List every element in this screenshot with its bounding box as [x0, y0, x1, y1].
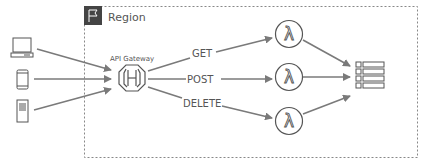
- region-boundary: [85, 7, 418, 158]
- region-label: Region: [108, 11, 146, 24]
- api-gateway-icon: [119, 65, 145, 91]
- client-arrows: [34, 49, 111, 110]
- flag-icon: [84, 6, 102, 25]
- lambda-icon: λ: [276, 108, 303, 135]
- svg-text:λ: λ: [284, 67, 294, 87]
- svg-text:λ: λ: [284, 24, 294, 44]
- table-icon: [356, 62, 384, 88]
- svg-text:λ: λ: [284, 111, 294, 131]
- method-label-delete: DELETE: [183, 98, 221, 109]
- method-label-get: GET: [192, 48, 213, 59]
- method-label-post: POST: [187, 74, 214, 85]
- lambda-icon: λ: [276, 21, 303, 48]
- server-icon: [17, 100, 28, 122]
- lambda-icon: λ: [276, 64, 303, 91]
- function-arrows: [303, 40, 350, 114]
- architecture-diagram: Region API Gateway: [0, 0, 427, 166]
- laptop-icon: [11, 38, 33, 57]
- mobile-phone-icon: [17, 70, 28, 89]
- api-gateway-label: API Gateway: [110, 55, 154, 63]
